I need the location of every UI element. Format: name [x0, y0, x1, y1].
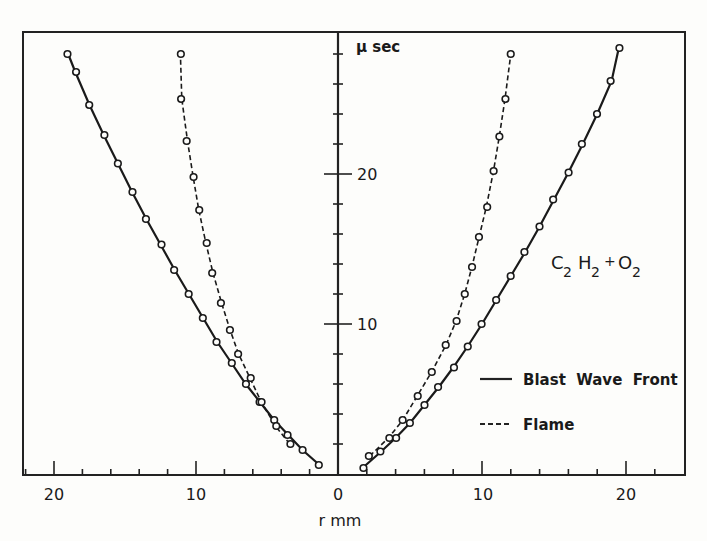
data-point-marker: [507, 273, 514, 280]
data-point-marker: [64, 51, 71, 58]
data-point-marker: [435, 384, 442, 391]
data-point-marker: [476, 234, 483, 241]
data-point-marker: [469, 264, 476, 271]
data-point-marker: [453, 318, 460, 325]
y-tick-label-10: 10: [357, 315, 377, 334]
svg-text:O: O: [618, 252, 632, 273]
data-point-marker: [442, 342, 449, 349]
data-point-marker: [287, 441, 294, 448]
data-point-marker: [607, 78, 614, 85]
data-point-marker: [366, 453, 373, 460]
data-point-marker: [196, 207, 203, 214]
data-point-marker: [235, 351, 242, 358]
data-point-marker: [393, 435, 400, 442]
data-point-marker: [284, 432, 291, 439]
data-point-marker: [521, 249, 528, 256]
y-axis-label: μ sec: [356, 38, 400, 56]
data-point-marker: [213, 339, 220, 346]
data-point-marker: [451, 364, 458, 371]
data-point-marker: [247, 375, 254, 382]
y-tick-label-20: 20: [357, 165, 377, 184]
data-point-marker: [428, 369, 435, 376]
data-point-marker: [490, 168, 497, 175]
data-point-marker: [414, 393, 421, 400]
data-point-marker: [536, 223, 543, 230]
data-point-marker: [579, 141, 586, 148]
data-point-marker: [209, 270, 216, 277]
legend: Blast Wave Front Flame: [480, 371, 678, 434]
data-point-marker: [496, 133, 503, 140]
data-point-marker: [461, 291, 468, 298]
data-point-marker: [73, 69, 80, 76]
data-point-marker: [143, 216, 150, 223]
x-tick-label-0: 0: [333, 485, 343, 504]
data-point-marker: [565, 169, 572, 176]
data-point-marker: [203, 240, 210, 247]
data-point-marker: [227, 327, 234, 334]
data-point-marker: [243, 381, 250, 388]
data-point-marker: [594, 111, 601, 118]
data-point-marker: [178, 96, 185, 103]
svg-text:2: 2: [591, 264, 600, 280]
data-point-marker: [190, 174, 197, 181]
x-axis-ticks: [26, 461, 655, 475]
data-point-marker: [360, 465, 367, 472]
x-tick-label-right-20: 20: [616, 485, 636, 504]
x-tick-label-left-20: 20: [44, 485, 64, 504]
data-point-marker: [185, 291, 192, 298]
curve-flame-right-: [370, 54, 511, 456]
data-point-marker: [484, 204, 491, 211]
data-point-marker: [299, 447, 306, 454]
data-point-marker: [178, 51, 185, 58]
data-point-marker: [616, 45, 623, 52]
data-point-marker: [421, 402, 428, 409]
data-point-marker: [218, 300, 225, 307]
data-point-marker: [386, 435, 393, 442]
data-point-marker: [171, 267, 178, 274]
curve-blast-wave-front-left-: [68, 54, 319, 465]
data-points: [64, 45, 623, 472]
data-point-marker: [407, 420, 414, 427]
x-tick-label-left-10: 10: [186, 485, 206, 504]
data-point-marker: [129, 189, 136, 196]
reaction-annotation: C 2 H 2 + O 2: [551, 252, 641, 280]
data-point-marker: [478, 321, 485, 328]
svg-text:+: +: [604, 253, 616, 269]
legend-flame-label: Flame: [523, 416, 574, 434]
curve-flame-left-: [180, 54, 289, 444]
data-point-marker: [316, 462, 323, 469]
svg-text:2: 2: [632, 264, 641, 280]
x-tick-label-right-10: 10: [473, 485, 493, 504]
legend-blast-wave-label: Blast Wave Front: [523, 371, 678, 389]
data-point-marker: [377, 448, 384, 455]
data-point-marker: [115, 160, 122, 167]
data-point-marker: [502, 96, 509, 103]
data-point-marker: [399, 417, 406, 424]
svg-text:H: H: [578, 252, 592, 273]
chart: μ sec 20 10 20 10 0 10 20 r mm C 2 H 2 +…: [0, 0, 707, 541]
data-point-marker: [493, 297, 500, 304]
data-point-marker: [200, 315, 207, 322]
data-point-marker: [229, 360, 236, 367]
data-curves: [68, 48, 619, 468]
data-point-marker: [550, 196, 557, 203]
svg-text:C: C: [551, 252, 564, 273]
data-point-marker: [101, 132, 108, 139]
data-point-marker: [464, 343, 471, 350]
data-point-marker: [273, 423, 280, 430]
data-point-marker: [258, 399, 265, 406]
data-point-marker: [507, 51, 514, 58]
svg-text:2: 2: [563, 264, 572, 280]
x-axis-label: r mm: [319, 511, 362, 530]
data-point-marker: [183, 138, 190, 145]
data-point-marker: [158, 241, 165, 248]
data-point-marker: [86, 102, 93, 109]
